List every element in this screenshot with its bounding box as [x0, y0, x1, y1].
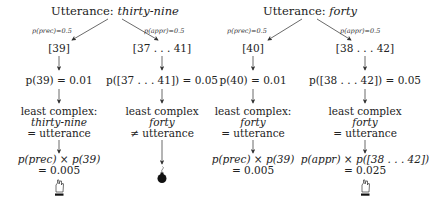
edge-prec-arrow: [268, 19, 302, 40]
edge-label-prec: p(prec)=0.5: [32, 27, 72, 35]
edge-prec-arrow: [72, 19, 108, 40]
complexity-node: least complex: forty = utterance: [215, 106, 292, 139]
edge-label-appr: p(appr)=0.5: [340, 27, 380, 35]
interpretation-node: [40]: [242, 43, 264, 54]
result-node: p(prec) × p(39) = 0.005: [18, 154, 101, 176]
complexity-node: least complex forty = utterance: [328, 106, 401, 139]
complexity-compare: = utterance: [328, 128, 401, 139]
result-value: = 0.005: [18, 165, 101, 176]
interpretation-node: [39]: [48, 43, 70, 54]
complexity-node: least complex: thirty-nine = utterance: [21, 106, 98, 139]
winner-hand-icon: [358, 178, 372, 198]
complexity-compare: = utterance: [215, 128, 292, 139]
interpretation-node: [38 . . . 42]: [336, 43, 394, 54]
prior-node: p(39) = 0.01: [25, 75, 92, 86]
complexity-compare: = utterance: [21, 128, 98, 139]
tree-2-title: Utterance: forty: [263, 4, 357, 18]
prior-node: p([37 . . . 41]) = 0.05: [106, 75, 218, 86]
prior-node: p(40) = 0.01: [219, 75, 286, 86]
result-node: p(appr) × p([38 . . . 42]) = 0.025: [301, 154, 429, 176]
bomb-icon: [155, 166, 169, 184]
result-value: = 0.025: [301, 165, 429, 176]
prior-node: p([38 . . . 42]) = 0.05: [309, 75, 421, 86]
interpretation-node: [37 . . . 41]: [133, 43, 191, 54]
result-value: = 0.005: [212, 165, 295, 176]
winner-hand-icon: [52, 178, 66, 198]
utterance-word: thirty-nine: [117, 4, 179, 18]
edge-label-prec: p(prec)=0.5: [227, 27, 267, 35]
title-prefix: Utterance:: [51, 4, 117, 18]
tree-1-title: Utterance: thirty-nine: [51, 4, 179, 18]
edge-label-appr: p(appr)=0.5: [144, 27, 184, 35]
complexity-compare: ≠ utterance: [125, 128, 198, 139]
result-node: p(prec) × p(39) = 0.005: [212, 154, 295, 176]
title-prefix: Utterance:: [263, 4, 329, 18]
utterance-word: forty: [329, 4, 357, 18]
complexity-node: least complex forty ≠ utterance: [125, 106, 198, 139]
